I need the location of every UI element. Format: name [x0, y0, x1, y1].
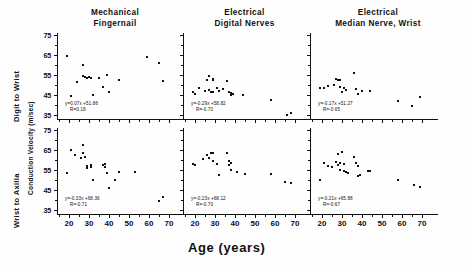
y-axis-tick-label: 35 — [37, 111, 51, 120]
data-point — [411, 105, 413, 107]
regression-annotation: y=-0.17x +51.27R=-0.65 — [318, 101, 353, 112]
panel-title-line1: Mechanical — [55, 7, 175, 18]
x-axis-tick — [295, 215, 296, 218]
x-axis-tick-label: 50 — [375, 219, 389, 228]
scatter-panel: 203040506070y=-0.23x +68.12R=-0.70 — [183, 128, 301, 214]
x-axis-tick — [109, 120, 110, 123]
data-point — [327, 165, 329, 167]
x-axis-tick-label: 60 — [395, 219, 409, 228]
correlation-coefficient: R=-0.70 — [191, 107, 226, 113]
y-axis-tick — [307, 95, 310, 96]
regression-equation: y=-0.21x +65.88 — [318, 196, 353, 201]
x-axis-tick — [235, 120, 236, 123]
data-point — [114, 179, 116, 181]
data-point — [202, 158, 204, 160]
data-point — [212, 160, 214, 162]
data-point — [218, 90, 220, 92]
x-axis-line — [183, 119, 311, 120]
x-axis-tick — [382, 120, 383, 123]
x-axis-tick — [322, 215, 323, 218]
data-point — [74, 154, 76, 156]
y-axis-minor-tick — [308, 160, 310, 161]
x-axis-minor-tick — [119, 120, 120, 122]
data-point — [66, 55, 68, 57]
x-axis-tick — [109, 215, 110, 218]
y-axis-tick — [307, 75, 310, 76]
data-point — [206, 79, 208, 81]
y-axis-tick-label: 55 — [37, 166, 51, 175]
data-point — [134, 171, 136, 173]
x-axis-minor-tick — [185, 120, 186, 122]
x-axis-minor-tick — [59, 120, 60, 122]
x-axis-line — [183, 214, 311, 215]
x-axis-tick-label: 20 — [62, 219, 76, 228]
data-point — [357, 93, 359, 95]
y-axis-tick — [54, 150, 57, 151]
data-point — [244, 173, 246, 175]
x-axis-tick — [342, 120, 343, 123]
y-axis-tick — [54, 190, 57, 191]
x-axis-minor-tick — [285, 215, 286, 217]
panel-title-column-2: Electrical Digital Nerves — [182, 7, 307, 29]
data-point — [70, 149, 72, 151]
x-axis-tick — [362, 215, 363, 218]
y-axis-minor-tick — [181, 200, 183, 201]
regression-equation: y=0.07x +51.86 — [65, 101, 98, 106]
x-axis-minor-tick — [412, 120, 413, 122]
y-axis-minor-tick — [308, 65, 310, 66]
y-axis-minor-tick — [55, 85, 57, 86]
x-axis-minor-tick — [392, 215, 393, 217]
x-axis-tick-label: 40 — [355, 219, 369, 228]
x-axis-tick — [422, 215, 423, 218]
x-axis-tick — [235, 215, 236, 218]
x-axis-tick — [382, 215, 383, 218]
data-point — [345, 89, 347, 91]
data-point — [343, 163, 345, 165]
data-point — [357, 165, 359, 167]
y-axis-tick-label: 75 — [37, 126, 51, 135]
x-axis-line — [57, 119, 185, 120]
data-point — [359, 174, 361, 176]
y-axis-tick — [180, 170, 183, 171]
y-axis-line — [310, 33, 311, 119]
y-axis-tick — [180, 210, 183, 211]
data-point — [270, 99, 272, 101]
y-axis-tick-label: 65 — [37, 51, 51, 60]
x-axis-tick — [402, 120, 403, 123]
data-point — [341, 91, 343, 93]
x-axis-minor-tick — [185, 215, 186, 217]
data-point — [208, 157, 210, 159]
y-axis-minor-tick — [181, 45, 183, 46]
panel-title-line1: Electrical — [308, 7, 448, 18]
regression-equation: y=-0.17x +51.27 — [318, 101, 353, 106]
panel-title-column-3: Electrical Median Nerve, Wrist — [308, 7, 448, 29]
data-point — [102, 86, 104, 88]
x-axis-minor-tick — [352, 120, 353, 122]
data-point — [339, 79, 341, 81]
y-axis-tick — [54, 95, 57, 96]
y-axis-minor-tick — [181, 105, 183, 106]
x-axis-minor-tick — [159, 215, 160, 217]
scatter-panel: 7565554535203040506070y=-0.33x +68.36R=-… — [57, 128, 175, 214]
figure-root: Mechanical Fingernail Electrical Digital… — [0, 0, 466, 266]
data-point — [337, 164, 339, 166]
data-point — [290, 112, 292, 114]
x-axis-minor-tick — [119, 215, 120, 217]
y-axis-tick — [307, 130, 310, 131]
x-axis-tick — [169, 120, 170, 123]
data-point — [198, 87, 200, 89]
data-point — [90, 166, 92, 168]
data-point — [104, 166, 106, 168]
y-axis-tick-label: 75 — [37, 31, 51, 40]
x-axis-minor-tick — [312, 120, 313, 122]
x-axis-tick-label: 20 — [315, 219, 329, 228]
x-axis-tick — [129, 120, 130, 123]
y-axis-tick — [180, 95, 183, 96]
y-axis-minor-tick — [308, 180, 310, 181]
regression-annotation: y=-0.33x +68.36R=-0.71 — [65, 196, 100, 207]
data-point — [118, 79, 120, 81]
x-axis-tick-label: 30 — [208, 219, 222, 228]
x-axis-minor-tick — [372, 215, 373, 217]
x-axis-minor-tick — [79, 215, 80, 217]
y-axis-tick — [54, 75, 57, 76]
